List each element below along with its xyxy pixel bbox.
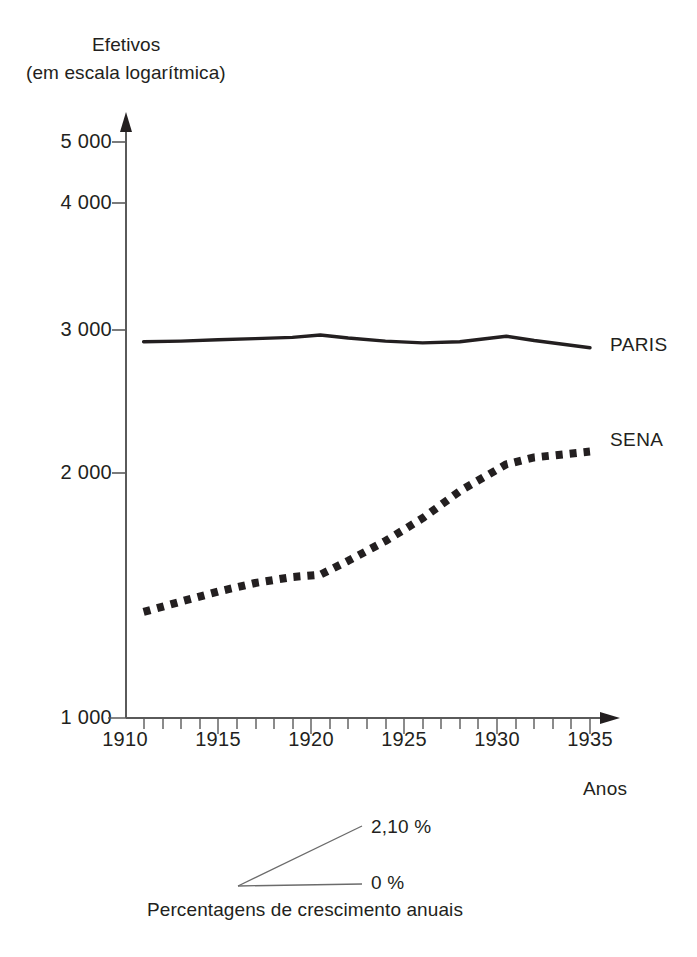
slope-line-0 [238, 884, 362, 886]
series-line-sena [144, 452, 590, 612]
axes-group [120, 112, 620, 724]
slope-line-210 [238, 826, 362, 886]
chart-canvas [0, 0, 697, 957]
slope-legend-wedge [238, 826, 362, 886]
series-line-paris [144, 335, 590, 348]
y-axis-arrow-icon [120, 112, 132, 132]
x-axis-arrow-icon [600, 712, 620, 724]
x-axis-minor-ticks [144, 718, 590, 734]
chart-figure: Efetivos (em escala logarítmica) 5 000 4… [0, 0, 697, 957]
